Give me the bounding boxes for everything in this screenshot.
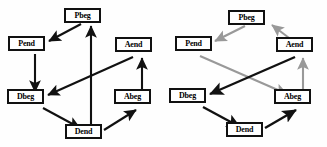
node-label: Aend bbox=[125, 40, 142, 49]
edge-right-dend-abeg bbox=[265, 110, 296, 128]
edge-layer bbox=[0, 0, 327, 147]
node-right-dend[interactable]: Dend bbox=[226, 122, 263, 137]
node-label: Dend bbox=[75, 127, 92, 136]
node-label: Pend bbox=[185, 39, 202, 48]
node-right-dbeg[interactable]: Dbeg bbox=[169, 88, 206, 103]
node-right-pend[interactable]: Pend bbox=[175, 36, 212, 51]
node-label: Pbeg bbox=[74, 11, 90, 20]
node-left-abeg[interactable]: Abeg bbox=[114, 89, 151, 104]
node-left-pbeg[interactable]: Pbeg bbox=[64, 8, 101, 23]
node-label: Dend bbox=[236, 125, 253, 134]
node-label: Dbeg bbox=[179, 91, 196, 100]
edge-left-pbeg-pend bbox=[49, 24, 81, 41]
node-label: Abeg bbox=[284, 92, 301, 101]
node-label: Dbeg bbox=[17, 92, 34, 101]
node-left-dend[interactable]: Dend bbox=[65, 124, 102, 139]
figure-canvas: Pbeg Pend Aend Dbeg Abeg Dend Pbeg Pend … bbox=[0, 0, 327, 147]
node-label: Pend bbox=[18, 39, 35, 48]
node-label: Aend bbox=[286, 40, 303, 49]
edge-left-dend-abeg bbox=[104, 110, 136, 130]
node-right-abeg[interactable]: Abeg bbox=[274, 89, 311, 104]
node-label: Abeg bbox=[124, 92, 141, 101]
node-left-dbeg[interactable]: Dbeg bbox=[7, 89, 44, 104]
edge-right-pbeg-pend bbox=[215, 26, 245, 41]
node-left-pend[interactable]: Pend bbox=[8, 36, 45, 51]
node-right-pbeg[interactable]: Pbeg bbox=[228, 10, 265, 25]
node-right-aend[interactable]: Aend bbox=[276, 37, 313, 52]
node-label: Pbeg bbox=[238, 13, 254, 22]
node-left-aend[interactable]: Aend bbox=[115, 37, 152, 52]
